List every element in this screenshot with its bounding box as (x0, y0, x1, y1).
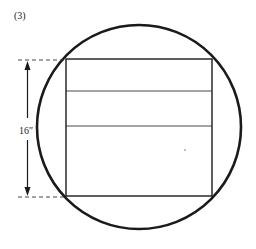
arrowhead-down-icon (25, 187, 31, 196)
inscribed-rectangle (66, 59, 212, 196)
diagram-canvas: (3) 16″ (0, 0, 256, 249)
figure-label: (3) (14, 10, 26, 22)
arrowhead-up-icon (25, 61, 31, 70)
speck-dot (184, 149, 185, 150)
circle (37, 25, 241, 229)
dimension-label: 16″ (19, 125, 33, 136)
